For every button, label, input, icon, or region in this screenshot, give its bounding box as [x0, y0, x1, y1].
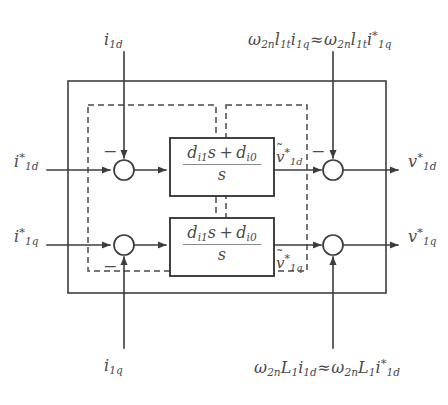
transfer-function-expression-upper: di1s + di0 s [178, 145, 266, 183]
input-label-ref-id: i*1d [14, 152, 39, 172]
output-label-vd: v*1d [408, 152, 436, 172]
intermediate-label-v-tilde-d: ˜v*1d [276, 148, 303, 167]
decoupling-label-bottom: ω2nL1i1d≈ω2nL1i*1d [254, 358, 400, 378]
tf-denominator-lower: s [183, 244, 260, 263]
sign-marker-sum3: − [311, 143, 325, 160]
tf-denominator-upper: s [183, 164, 260, 183]
tf-numerator-upper: di1s + di0 [183, 145, 260, 164]
tf-numerator-lower: di1s + di0 [183, 225, 260, 244]
block-diagram-figure: i*1d i*1q v*1d v*1q i1d i1q ω2nl1ti1q≈ω2… [0, 0, 448, 405]
block-diagram-canvas [0, 0, 448, 405]
summing-junction-3 [323, 160, 343, 180]
transfer-function-expression-lower: di1s + di0 s [178, 225, 266, 263]
output-label-vq: v*1q [408, 227, 436, 247]
feedback-label-i1d: i1d [104, 32, 123, 50]
intermediate-label-v-tilde-q: ˜v*1q [276, 254, 303, 273]
feedback-label-i1q: i1q [104, 358, 123, 376]
summing-junction-4 [323, 235, 343, 255]
summing-junction-2 [114, 235, 134, 255]
sign-marker-sum1: − [103, 143, 117, 160]
summing-junction-1 [114, 160, 134, 180]
sign-marker-sum2: − [103, 258, 117, 275]
input-label-ref-iq: i*1q [14, 227, 39, 247]
decoupling-label-top: ω2nl1ti1q≈ω2nl1ti*1q [248, 30, 391, 50]
